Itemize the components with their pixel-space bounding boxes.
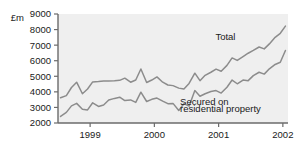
y-tick-label: 2000 [30, 117, 51, 128]
series-label: Total [215, 31, 235, 42]
y-tick-label: 8000 [30, 24, 51, 35]
y-tick-label: 3000 [30, 102, 51, 113]
chart-container: 20003000400050006000700080009000 1999200… [0, 0, 302, 147]
y-tick-label: 7000 [30, 40, 51, 51]
y-tick-label: 4000 [30, 86, 51, 97]
y-tick-label: 9000 [30, 8, 51, 19]
y-tick-label: 6000 [30, 55, 51, 66]
line-chart: 20003000400050006000700080009000 1999200… [0, 0, 302, 147]
x-tick-label: 2001 [208, 129, 229, 140]
x-tick-label: 2000 [144, 129, 165, 140]
x-tick-label: 2002 [272, 129, 293, 140]
series-label: residential property [180, 103, 261, 114]
y-axis-label: £m [11, 12, 24, 23]
x-tick-label: 1999 [80, 129, 101, 140]
y-tick-label: 5000 [30, 71, 51, 82]
